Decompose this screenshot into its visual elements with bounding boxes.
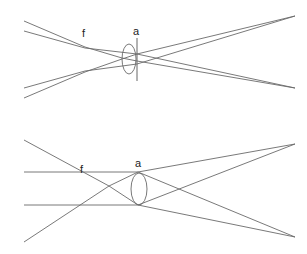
bottom-ray-right-1: [138, 144, 295, 172]
bottom-ray-right-3: [138, 172, 295, 237]
top-diagram: f a: [24, 16, 295, 98]
top-ray-2: [24, 31, 295, 88]
top-ray-1: [24, 21, 295, 88]
bottom-ray-diag-up: [24, 172, 138, 242]
bottom-ray-right-2: [138, 144, 295, 205]
bottom-aperture-label: a: [135, 157, 142, 169]
bottom-diagram: f a: [24, 140, 295, 242]
top-ray-3: [24, 16, 295, 88]
bottom-ray-right-4: [138, 205, 295, 237]
top-focus-label: f: [82, 27, 86, 39]
bottom-focus-label: f: [80, 163, 84, 175]
bottom-lens: [131, 173, 147, 205]
optics-diagram: f a f a: [0, 0, 307, 254]
top-aperture-label: a: [133, 25, 140, 37]
